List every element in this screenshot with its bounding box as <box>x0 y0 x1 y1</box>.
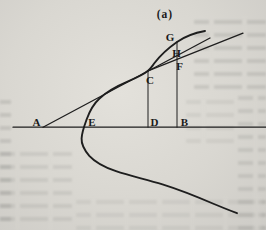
point-label-D: D <box>151 116 159 128</box>
point-label-B: B <box>181 116 189 128</box>
tangent-line-at-C <box>148 33 243 71</box>
figure-diagram: (a) A E D B C G H F <box>0 0 266 230</box>
point-label-A: A <box>33 116 41 128</box>
figure-caption: (a) <box>157 8 173 21</box>
tangent-line-from-A <box>43 38 210 127</box>
point-label-E: E <box>88 116 95 128</box>
parabola-curve <box>82 31 237 213</box>
point-label-F: F <box>176 60 183 72</box>
point-label-H: H <box>172 47 181 59</box>
point-label-G: G <box>166 31 175 43</box>
scanned-page: (a) A E D B C G H F <box>0 0 266 230</box>
point-label-C: C <box>146 74 154 86</box>
